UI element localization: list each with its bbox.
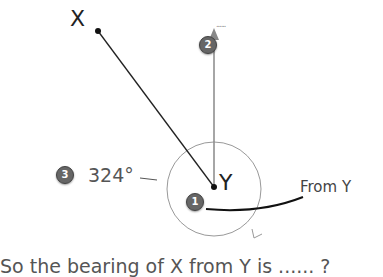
point-x-label: X [70, 6, 85, 31]
north-label: ...... [216, 20, 225, 29]
badge-3: 3 [56, 166, 74, 184]
badge-1: 1 [186, 193, 204, 211]
point-y-dot [211, 184, 217, 190]
from-y-label: From Y [300, 178, 351, 196]
point-y-label: Y [219, 170, 232, 195]
point-x-dot [95, 28, 101, 34]
caption: So the bearing of X from Y is ...... ? [0, 255, 330, 277]
from-y-pointer [206, 197, 303, 210]
angle-label-pointer [140, 178, 157, 180]
angle-label: 324° [88, 164, 134, 186]
rotation-arrow-icon [252, 229, 262, 238]
badge-2: 2 [199, 36, 217, 54]
